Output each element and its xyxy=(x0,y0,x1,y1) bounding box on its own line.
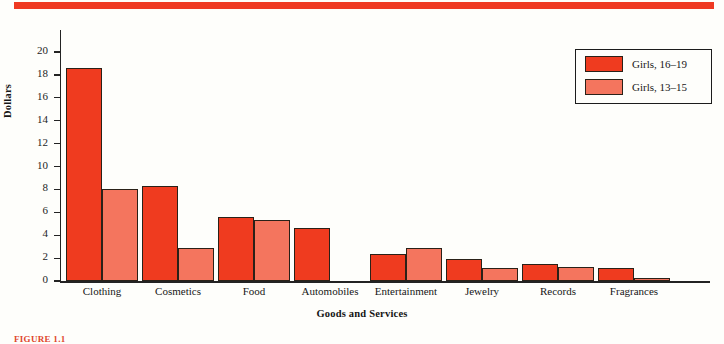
y-tick-label: 6 xyxy=(8,204,48,216)
y-tick-label: 20 xyxy=(8,44,48,56)
legend-swatch-girls-13-15 xyxy=(585,79,623,95)
bar xyxy=(370,254,406,281)
bar-group xyxy=(446,52,522,281)
bar xyxy=(178,248,214,281)
y-tick-label: 8 xyxy=(8,181,48,193)
y-tick-label: 10 xyxy=(8,159,48,171)
chart-legend: Girls, 16–19 Girls, 13–15 xyxy=(575,49,712,104)
y-tick-label: 0 xyxy=(8,273,48,285)
figure-container: Dollars 02468101214161820 ClothingCosmet… xyxy=(0,0,724,344)
bar xyxy=(102,189,138,281)
bar-group xyxy=(66,52,142,281)
legend-entry-0: Girls, 16–19 xyxy=(585,55,687,73)
bar xyxy=(446,259,482,281)
figure-caption: FIGURE 1.1 xyxy=(14,334,66,344)
y-tick-label: 12 xyxy=(8,136,48,148)
legend-label-girls-13-15: Girls, 13–15 xyxy=(632,81,687,93)
y-tick-label: 14 xyxy=(8,113,48,125)
y-tick-label: 2 xyxy=(8,250,48,262)
bar-group xyxy=(218,52,294,281)
bar xyxy=(634,278,670,281)
y-tick-label: 18 xyxy=(8,67,48,79)
x-tick-label: Fragrances xyxy=(582,285,686,297)
bar-group xyxy=(370,52,446,281)
legend-label-girls-16-19: Girls, 16–19 xyxy=(632,58,687,70)
x-axis-title: Goods and Services xyxy=(0,308,724,319)
bar xyxy=(218,217,254,281)
bar xyxy=(558,267,594,281)
bar xyxy=(254,220,290,281)
bar xyxy=(142,186,178,281)
bar xyxy=(598,268,634,281)
legend-entry-1: Girls, 13–15 xyxy=(585,78,687,96)
y-tick-label: 16 xyxy=(8,90,48,102)
bar xyxy=(482,268,518,281)
y-tick-label: 4 xyxy=(8,227,48,239)
bar xyxy=(406,248,442,281)
bar xyxy=(294,228,330,281)
bar-group xyxy=(142,52,218,281)
bar xyxy=(66,68,102,281)
bar-group xyxy=(294,52,370,281)
bar xyxy=(522,264,558,281)
legend-swatch-girls-16-19 xyxy=(585,56,623,72)
